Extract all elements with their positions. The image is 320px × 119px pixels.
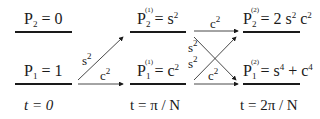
weight-step1-diagonal: s2	[82, 53, 92, 69]
label-p2-t2: P(2)2 = 2 s2 c2	[243, 11, 312, 29]
label-p1-t1: P(1)1 = c2	[137, 63, 179, 81]
time-label-2: t = 2π / N	[240, 97, 298, 114]
weight-step1-straight: c2	[100, 68, 110, 84]
level-p2-t1	[130, 31, 186, 33]
level-p2-t0	[15, 31, 72, 33]
time-label-0: t = 0	[24, 97, 53, 114]
weight-step2-cross-lower: s2	[188, 56, 198, 72]
level-p2-t2	[243, 31, 300, 33]
level-p1-t0	[15, 83, 72, 85]
time-label-1: t = π / N	[130, 97, 180, 114]
label-p1-t2: P(2)1 = s4 + c4	[243, 63, 313, 81]
label-p2-t0: P2 = 0	[24, 11, 62, 29]
level-p1-t2	[243, 83, 300, 85]
weight-step2-top-straight: c2	[210, 16, 220, 32]
level-p1-t1	[130, 83, 186, 85]
weight-step2-bottom-straight: c2	[208, 68, 218, 84]
label-p1-t0: P1 = 1	[24, 63, 62, 81]
label-p2-t1: P(1)2 = s2	[137, 11, 178, 29]
